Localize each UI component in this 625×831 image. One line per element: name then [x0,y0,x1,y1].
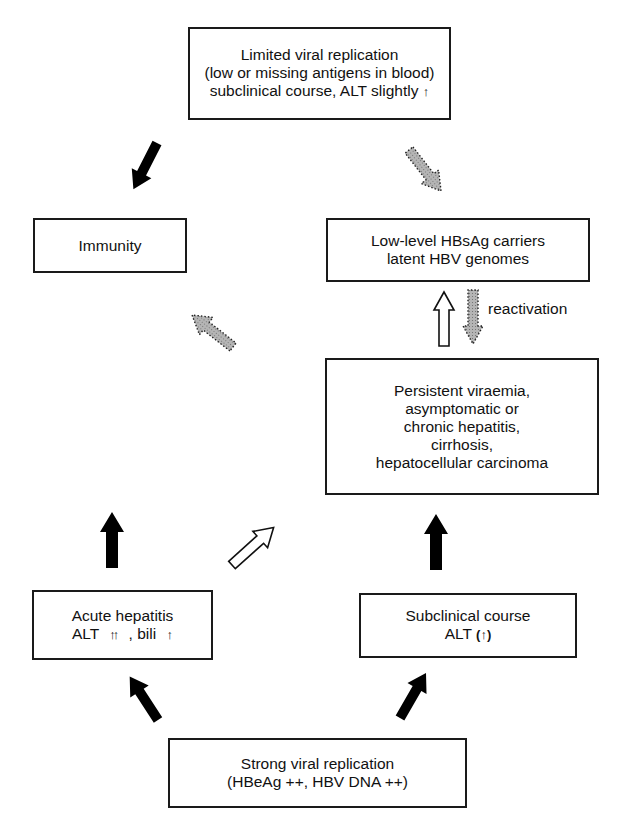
node-acute-hepatitis: Acute hepatitis ALT ↑↑ , bili ↑ [32,590,213,660]
node-subclinical-course: Subclinical course ALT (↑) [359,593,577,658]
arrow-acute-up [100,512,124,568]
node-lowlevel-line2: latent HBV genomes [387,250,529,268]
arrow-to-immunity-dotted [185,306,240,355]
double-up-arrow-icon: ↑↑ [109,627,116,642]
node-low-level-carriers: Low-level HBsAg carriers latent HBV geno… [326,218,590,282]
node-limited-replication: Limited viral replication (low or missin… [188,27,451,120]
node-persistent-viraemia: Persistent viraemia, asymptomatic or chr… [325,358,599,495]
arrow-strong-to-subclinical [390,667,435,723]
node-acute-bili: , bili [129,625,157,642]
node-persistent-line4: cirrhosis, [431,436,493,454]
arrow-limited-to-lowlevel [400,143,449,198]
node-subclinical-line1: Subclinical course [406,607,531,625]
node-limited-line3: subclinical course, ALT slightly [210,82,419,99]
arrow-reactivation [463,290,483,344]
node-subclinical-line2: ALT (↑) [445,625,491,644]
node-limited-line1: Limited viral replication [241,46,399,64]
arrow-acute-to-persistent [225,519,281,573]
node-limited-line2: (low or missing antigens in blood) [204,64,434,82]
up-arrow-icon: ↑ [167,627,174,642]
node-acute-alt: ALT [72,625,99,642]
node-immunity: Immunity [33,218,187,273]
node-strong-line2: (HBeAg ++, HBV DNA ++) [227,773,408,791]
node-subclinical-alt: ALT [445,625,472,642]
node-acute-line1: Acute hepatitis [72,607,174,625]
node-acute-line2: ALT ↑↑ , bili ↑ [72,625,173,644]
arrow-persistent-to-lowlevel [434,292,454,346]
arrow-limited-to-immunity [124,138,167,194]
node-lowlevel-line1: Low-level HBsAg carriers [371,232,545,250]
edge-label-reactivation: reactivation [488,300,567,318]
node-persistent-line2: asymptomatic or [405,400,519,418]
arrow-strong-to-acute [120,670,167,726]
node-persistent-line1: Persistent viraemia, [394,382,530,400]
arrow-subclinical-to-persistent [424,514,448,570]
node-immunity-label: Immunity [79,237,142,255]
node-persistent-line5: hepatocellular carcinoma [376,454,548,472]
node-strong-line1: Strong viral replication [241,755,394,773]
node-limited-line3-wrap: subclinical course, ALT slightly ↑ [210,82,430,101]
node-persistent-line3: chronic hepatitis, [404,418,520,436]
node-strong-replication: Strong viral replication (HBeAg ++, HBV … [168,738,467,808]
parenthesized-up-arrow-icon: (↑) [476,627,491,642]
up-arrow-icon: ↑ [423,84,430,99]
